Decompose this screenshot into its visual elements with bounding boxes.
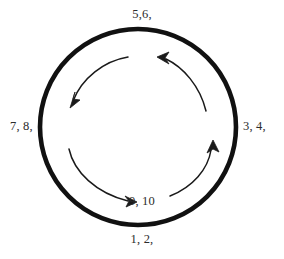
- cycle-diagram: 5,6, 3, 4, 7, 8, 1, 2, 9, 10: [0, 0, 284, 259]
- label-left: 7, 8,: [10, 120, 33, 133]
- label-top: 5,6,: [0, 8, 284, 21]
- label-bottom: 1, 2,: [0, 233, 284, 246]
- label-inner-bottom: 9, 10: [0, 195, 284, 208]
- arrow-right-up: [170, 140, 219, 196]
- cycle-diagram-graphics: [0, 0, 284, 259]
- arrow-top-right: [157, 52, 206, 111]
- arrow-top-left: [70, 57, 128, 108]
- label-right: 3, 4,: [243, 120, 266, 133]
